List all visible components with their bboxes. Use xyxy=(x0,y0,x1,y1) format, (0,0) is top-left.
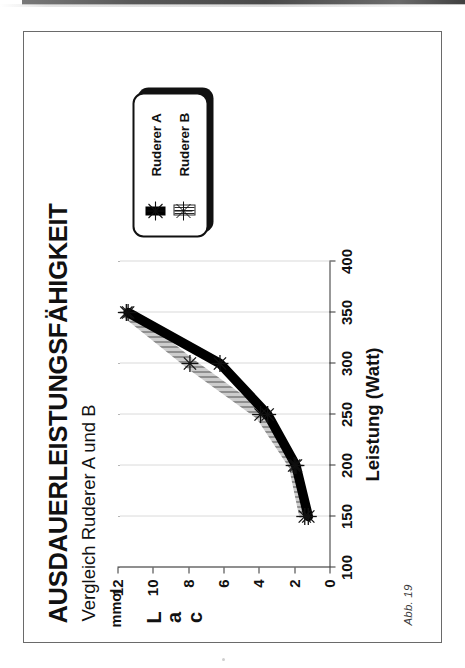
x-axis-tick-label: 200 xyxy=(337,452,354,477)
y-axis-tick xyxy=(223,567,224,573)
plot-wrapper: 100150200250300350400 024681012 Leistung… xyxy=(25,33,440,641)
scan-edge-gradient xyxy=(0,4,465,7)
y-axis-title: Lac xyxy=(143,611,204,623)
x-axis-tick-label: 300 xyxy=(337,350,354,375)
scan-speckle xyxy=(222,658,225,661)
series-ruderer-b xyxy=(126,312,304,516)
series-ruderer-a xyxy=(128,312,308,516)
figure-frame: AUSDAUERLEISTUNGSFÄHIGKEIT Vergleich Rud… xyxy=(23,31,442,643)
y-axis-tick xyxy=(117,567,118,573)
x-axis-tick xyxy=(329,260,335,261)
rotated-page-stage: AUSDAUERLEISTUNGSFÄHIGKEIT Vergleich Rud… xyxy=(25,33,440,641)
data-series-layer xyxy=(117,261,329,567)
x-axis-tick-label: 400 xyxy=(337,248,354,273)
y-axis-tick xyxy=(294,567,295,573)
x-axis-tick xyxy=(329,464,335,465)
plot-area xyxy=(117,261,329,567)
y-axis-unit-label: mmol xyxy=(107,588,123,627)
y-axis-tick-label: 0 xyxy=(321,579,338,605)
y-axis-title-letter: L xyxy=(143,611,163,623)
y-axis-tick-label: 10 xyxy=(144,579,161,605)
y-axis-tick-label: 2 xyxy=(285,579,302,605)
x-axis-tick xyxy=(329,413,335,414)
x-axis-tick-label: 150 xyxy=(337,503,354,528)
y-axis-tick xyxy=(152,567,153,573)
x-axis-tick xyxy=(329,311,335,312)
y-axis-tick-label: 8 xyxy=(179,579,196,605)
figure-caption: Abb. 19 xyxy=(401,584,413,625)
x-axis-tick xyxy=(329,515,335,516)
y-axis-tick xyxy=(188,567,189,573)
x-axis-tick-label: 350 xyxy=(337,299,354,324)
y-axis-title-letter: a xyxy=(163,611,183,622)
x-axis-title: Leistung (Watt) xyxy=(361,261,383,567)
y-axis-tick-label: 4 xyxy=(250,579,267,605)
data-point-markers xyxy=(117,304,316,525)
y-axis-tick xyxy=(329,567,330,573)
x-axis-tick xyxy=(329,362,335,363)
y-axis-tick-label: 6 xyxy=(215,579,232,605)
x-axis-tick-label: 250 xyxy=(337,401,354,426)
y-axis-tick xyxy=(258,567,259,573)
x-axis-tick-label: 100 xyxy=(337,554,354,579)
y-axis-title-letter: c xyxy=(184,611,204,622)
